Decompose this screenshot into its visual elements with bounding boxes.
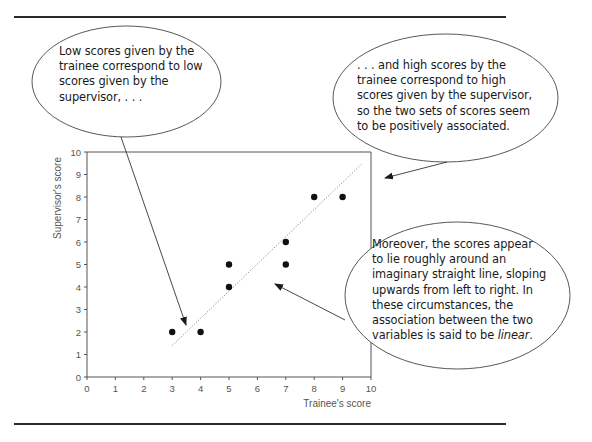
- callout-high-line: so the two sets of scores seem: [357, 104, 532, 119]
- callout-linear-line: imaginary straight line, sloping: [372, 267, 546, 282]
- trend-line: [172, 163, 362, 345]
- callout-low-line: scores given by the: [59, 74, 203, 89]
- data-point: [339, 194, 345, 200]
- x-tick-label: 7: [283, 383, 288, 394]
- x-tick-label: 9: [340, 383, 345, 394]
- data-point: [283, 261, 289, 267]
- y-tick-label: 3: [76, 304, 81, 315]
- data-point: [226, 284, 232, 290]
- x-tick-label: 4: [198, 383, 203, 394]
- callout-high-line: . . . and high scores by the: [357, 58, 532, 73]
- callout-linear-text: Moreover, the scores appear to lie rough…: [372, 237, 546, 343]
- callout-linear-suffix: .: [529, 328, 533, 342]
- x-tick-label: 3: [170, 383, 175, 394]
- arrow-high-points: [385, 162, 447, 178]
- callout-low-line: supervisor, . . .: [59, 90, 203, 105]
- data-point: [311, 194, 317, 200]
- callout-linear-line: upwards from left to right. In: [372, 283, 546, 298]
- callout-linear-line: to lie roughly around an: [372, 252, 546, 267]
- y-tick-label: 0: [76, 372, 81, 383]
- callout-linear-line: variables is said to be linear.: [372, 328, 546, 343]
- arrow-trend-line: [275, 284, 345, 320]
- arrow-low-points: [121, 137, 186, 325]
- y-tick-label: 9: [76, 169, 81, 180]
- callout-high-line: trainee correspond to high: [357, 73, 532, 88]
- callout-linear-line: Moreover, the scores appear: [372, 237, 546, 252]
- x-tick-label: 6: [255, 383, 260, 394]
- data-point: [197, 329, 203, 335]
- y-axis-ticks: 012345678910: [70, 147, 87, 383]
- x-tick-label: 5: [226, 383, 231, 394]
- x-tick-label: 2: [141, 383, 146, 394]
- y-tick-label: 7: [76, 214, 81, 225]
- figure: 012345678910 012345678910 Trainee's scor…: [0, 0, 592, 442]
- y-tick-label: 10: [70, 147, 81, 158]
- callout-low-line: trainee correspond to low: [59, 59, 203, 74]
- x-tick-label: 10: [366, 383, 377, 394]
- data-point: [226, 261, 232, 267]
- callout-high-line: to be positively associated.: [357, 119, 532, 134]
- callout-linear-line: these circumstances, the: [372, 298, 546, 313]
- x-tick-label: 0: [84, 383, 89, 394]
- y-tick-label: 5: [76, 259, 81, 270]
- x-axis-ticks: 012345678910: [84, 377, 376, 394]
- y-tick-label: 6: [76, 237, 81, 248]
- y-tick-label: 2: [76, 327, 81, 338]
- y-tick-label: 8: [76, 192, 81, 203]
- y-tick-label: 1: [76, 349, 81, 360]
- callout-high-text: . . . and high scores by the trainee cor…: [357, 58, 532, 134]
- x-tick-label: 8: [312, 383, 317, 394]
- callout-low-text: Low scores given by the trainee correspo…: [59, 44, 203, 105]
- x-tick-label: 1: [113, 383, 118, 394]
- callout-linear-prefix: variables is said to be: [372, 328, 498, 342]
- x-axis-label: Trainee's score: [303, 398, 371, 409]
- data-point: [169, 329, 175, 335]
- y-tick-label: 4: [76, 282, 81, 293]
- callout-linear-emphasis: linear: [498, 328, 530, 342]
- callout-low-line: Low scores given by the: [59, 44, 203, 59]
- callout-high-line: scores given by the supervisor,: [357, 88, 532, 103]
- y-axis-label: Supervisor's score: [52, 157, 63, 239]
- data-point: [283, 239, 289, 245]
- callout-linear-line: association between the two: [372, 313, 546, 328]
